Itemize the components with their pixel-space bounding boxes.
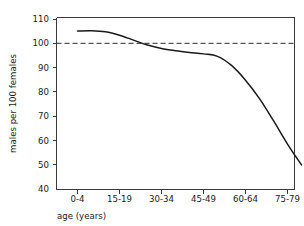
x-axis-title: age (years): [57, 211, 106, 221]
x-tick-label-45-49: 45-49: [191, 194, 216, 204]
sex-ratio-by-age-line-chart: 110 100 90 80 70 60 50 40 0-4 15-19 30-3…: [0, 0, 304, 226]
chart-figure: 110 100 90 80 70 60 50 40 0-4 15-19 30-3…: [0, 0, 304, 226]
y-tick-label-100: 100: [33, 38, 49, 48]
y-tick-label-50: 50: [38, 160, 49, 170]
x-tick-label-75-79: 75-79: [275, 194, 300, 204]
y-tick-label-110: 110: [33, 14, 49, 24]
y-tick-label-70: 70: [38, 111, 49, 121]
y-tick-label-80: 80: [38, 87, 49, 97]
y-tick-label-90: 90: [38, 63, 49, 73]
y-tick-label-60: 60: [38, 136, 49, 146]
x-tick-label-0-4: 0-4: [70, 194, 84, 204]
x-tick-label-15-19: 15-19: [107, 194, 132, 204]
y-tick-label-40: 40: [38, 184, 49, 194]
y-axis-title: males per 100 females: [8, 54, 18, 153]
x-tick-label-30-34: 30-34: [149, 194, 174, 204]
x-tick-label-60-64: 60-64: [233, 194, 258, 204]
